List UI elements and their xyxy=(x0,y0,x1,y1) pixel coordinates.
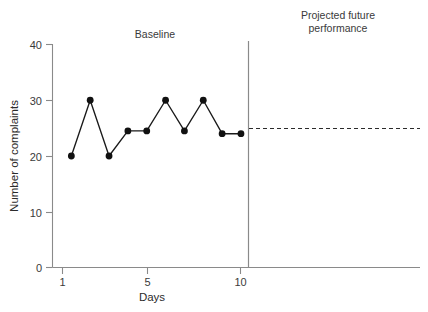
data-point xyxy=(106,153,113,160)
data-point xyxy=(87,97,94,104)
y-tick-label-20: 20 xyxy=(30,151,42,163)
y-tick-label-30: 30 xyxy=(30,95,42,107)
projected-phase-label-line2: performance xyxy=(309,22,368,34)
x-tick-label-5: 5 xyxy=(144,276,150,288)
complaints-line-chart: 40 30 20 10 0 1 5 10 Days Number of comp… xyxy=(0,0,428,312)
baseline-data-line xyxy=(71,100,241,156)
y-axis-title: Number of complaints xyxy=(8,100,20,212)
y-tick-label-10: 10 xyxy=(30,207,42,219)
baseline-data-points xyxy=(68,97,244,160)
data-point xyxy=(68,153,75,160)
y-tick-label-40: 40 xyxy=(30,39,42,51)
data-point xyxy=(162,97,169,104)
y-tick-label-0: 0 xyxy=(36,262,42,274)
projected-phase-label-line1: Projected future xyxy=(301,9,375,21)
data-point xyxy=(219,130,226,137)
data-point xyxy=(181,128,188,135)
x-tick-label-1: 1 xyxy=(59,276,65,288)
x-axis-title: Days xyxy=(139,291,165,303)
chart-canvas: 40 30 20 10 0 1 5 10 Days Number of comp… xyxy=(0,0,428,312)
data-point xyxy=(124,128,131,135)
y-axis-ticks: 40 30 20 10 0 xyxy=(30,39,53,274)
data-point xyxy=(200,97,207,104)
data-point xyxy=(238,130,245,137)
x-tick-label-10: 10 xyxy=(234,276,246,288)
baseline-phase-label: Baseline xyxy=(135,28,175,40)
data-point xyxy=(143,128,150,135)
x-axis-ticks: 1 5 10 xyxy=(59,268,246,289)
